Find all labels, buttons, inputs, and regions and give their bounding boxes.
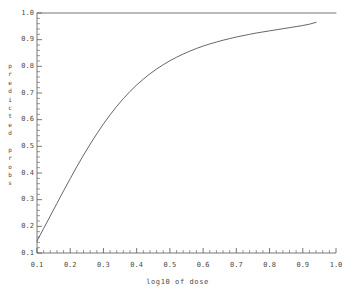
y-axis-title-char: d	[4, 87, 16, 95]
x-tick-label: 0.1	[22, 262, 52, 269]
chart-figure: 0.10.20.30.40.50.60.70.80.91.0 0.10.20.3…	[0, 0, 355, 296]
y-axis-title-char: d	[4, 129, 16, 137]
y-axis-title-char: p	[4, 62, 16, 70]
x-tick-label: 0.2	[55, 262, 85, 269]
y-axis-title-char: r	[4, 154, 16, 162]
y-axis-title-char: p	[4, 146, 16, 154]
y-axis-title: predicted.probs	[4, 62, 16, 188]
y-axis-title-char: c	[4, 104, 16, 112]
x-tick-label: 0.7	[221, 262, 251, 269]
x-tick-label: 0.5	[155, 262, 185, 269]
x-axis-tick-labels: 0.10.20.30.40.50.60.70.80.91.0	[0, 0, 355, 296]
x-axis-title: log10 of dose	[0, 278, 355, 287]
x-tick-label: 0.6	[188, 262, 218, 269]
y-axis-title-char: s	[4, 179, 16, 187]
y-axis-title-char: e	[4, 79, 16, 87]
y-axis-title-char: t	[4, 112, 16, 120]
y-axis-title-char: b	[4, 171, 16, 179]
x-tick-label: 0.4	[122, 262, 152, 269]
y-axis-title-char: r	[4, 70, 16, 78]
x-tick-label: 1.0	[321, 262, 351, 269]
y-axis-title-char: i	[4, 96, 16, 104]
y-axis-title-char: e	[4, 121, 16, 129]
x-tick-label: 0.8	[255, 262, 285, 269]
x-tick-label: 0.3	[88, 262, 118, 269]
y-axis-title-char: o	[4, 163, 16, 171]
x-tick-label: 0.9	[288, 262, 318, 269]
